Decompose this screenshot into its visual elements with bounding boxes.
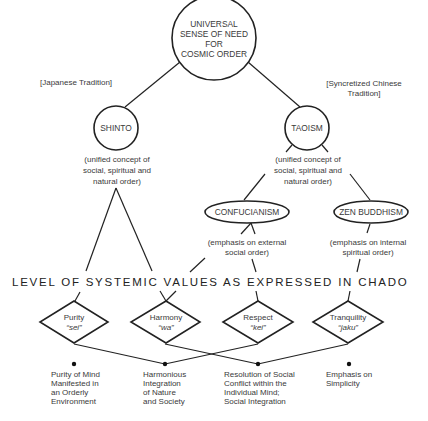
outcome-2-line-3: of Nature: [143, 388, 176, 397]
purity-term: “sei”: [66, 323, 82, 332]
harmony-diamond: [131, 301, 200, 343]
root-node: UNIVERSAL SENSE OF NEED FOR COSMIC ORDER: [172, 0, 256, 80]
confucianism-desc-1: (emphasis on external: [208, 238, 287, 247]
shinto-node: SHINTO (unified concept of social, spiri…: [83, 106, 151, 186]
connector-conf-stub-a: [241, 223, 251, 234]
outcome-4-line-2: Simplicity: [326, 379, 360, 388]
connector-zen-tranquility-upper: [357, 259, 360, 272]
purity-diamond: [40, 301, 108, 343]
taoism-node: TAOISM (unified concept of social, spiri…: [274, 106, 342, 186]
connector-tranquility-top: [348, 291, 350, 301]
respect-term: “kei”: [250, 323, 266, 332]
root-line-1: UNIVERSAL: [190, 19, 238, 29]
connector-taoism-stub-left: [286, 145, 292, 152]
root-line-2: SENSE OF NEED: [180, 29, 248, 39]
outcome-dot-simplicity: [347, 362, 351, 366]
harmony-name: Harmony: [150, 313, 182, 322]
confucianism-desc-2: social order): [225, 248, 269, 257]
value-harmony: Harmony “wa”: [131, 301, 200, 343]
connector-harmony-top-right: [166, 291, 176, 301]
taoism-label: TAOISM: [291, 123, 323, 133]
connector-purity-harmonious: [74, 344, 165, 364]
shinto-desc-3: natural order): [93, 177, 141, 186]
outcome-4-line-1: Emphasis on: [326, 370, 372, 379]
outcome-1-line-3: an Orderly: [51, 388, 88, 397]
zen-buddhism-label: ZEN BUDDHISM: [339, 207, 403, 217]
taoism-desc-1: (unified concept of: [275, 155, 341, 164]
outcome-dot-purity: [72, 362, 76, 366]
tranquility-term: “jaku”: [338, 323, 358, 332]
root-line-4: COSMIC ORDER: [181, 49, 247, 59]
value-tranquility: Tranquility “jaku”: [313, 301, 383, 343]
value-respect: Respect “kei”: [223, 301, 293, 343]
outcome-1-line-2: Manifested in: [51, 379, 99, 388]
connector-conf-respect-upper: [252, 259, 256, 272]
outcome-dot-resolution: [256, 362, 260, 366]
purity-name: Purity: [64, 313, 84, 322]
harmony-term: “wa”: [158, 323, 174, 332]
shinto-label: SHINTO: [100, 123, 132, 133]
zen-desc-2: spiritual order): [342, 248, 393, 257]
connector-root-shinto: [125, 62, 180, 107]
outcome-3-line-4: Social Integration: [224, 397, 286, 406]
outcome-2-line-1: Harmonious: [143, 370, 186, 379]
outcome-3-line-1: Resolution of Social: [224, 370, 295, 379]
chado-diagram: UNIVERSAL SENSE OF NEED FOR COSMIC ORDER…: [0, 0, 428, 421]
connector-conf-stub-b: [251, 223, 255, 234]
japanese-tradition-label: [Japanese Tradition]: [40, 78, 112, 87]
root-line-3: FOR: [205, 39, 223, 49]
chinese-tradition-label-2: Tradition]: [347, 89, 380, 98]
confucianism-label: CONFUCIANISM: [215, 207, 280, 217]
connector-harmony-top-left: [160, 291, 166, 301]
connector-zen-stub: [367, 224, 370, 233]
connector-shinto-harmony: [116, 188, 152, 271]
outcome-2-line-2: Integration: [143, 379, 181, 388]
systemic-values-heading: LEVEL OF SYSTEMIC VALUES AS EXPRESSED IN…: [12, 276, 410, 288]
tranquility-name: Tranquility: [330, 313, 367, 322]
connector-root-taoism: [248, 62, 300, 107]
zen-desc-1: (emphasis on internal: [330, 238, 407, 247]
outcome-harmonious-integration: Harmonious Integration of Nature and Soc…: [143, 370, 186, 406]
outcome-2-line-4: and Society: [143, 397, 185, 406]
respect-diamond: [223, 301, 293, 343]
connector-purity-top: [75, 292, 80, 301]
connector-taoism-confucianism: [244, 174, 265, 200]
connector-tranquility-resolution: [258, 344, 348, 364]
confucianism-node: CONFUCIANISM (emphasis on external socia…: [205, 201, 289, 257]
outcome-3-line-3: Individual Mind;: [224, 388, 280, 397]
chinese-tradition-label-1: [Syncretized Chinese: [326, 79, 402, 88]
value-purity: Purity “sei”: [40, 301, 108, 343]
shinto-desc-1: (unified concept of: [84, 155, 150, 164]
connector-taoism-zen: [350, 174, 370, 200]
taoism-desc-2: social, spiritual and: [274, 166, 342, 175]
connector-taoism-stub-right: [322, 145, 328, 152]
tranquility-diamond: [313, 301, 383, 343]
outcome-resolution-of-conflict: Resolution of Social Conflict within the…: [224, 370, 295, 406]
shinto-desc-2: social, spiritual and: [83, 166, 151, 175]
connector-shinto-purity: [86, 188, 116, 271]
outcome-1-line-4: Environment: [51, 397, 97, 406]
outcome-purity-of-mind: Purity of Mind Manifested in an Orderly …: [51, 370, 100, 406]
outcome-dot-harmonious: [163, 362, 167, 366]
outcome-emphasis-on-simplicity: Emphasis on Simplicity: [326, 370, 372, 388]
taoism-desc-3: natural order): [284, 177, 332, 186]
connector-respect-top: [256, 291, 258, 301]
connector-conf-harmony-upper: [190, 258, 205, 272]
respect-name: Respect: [243, 313, 273, 322]
outcome-3-line-2: Conflict within the: [224, 379, 287, 388]
outcome-1-line-1: Purity of Mind: [51, 370, 100, 379]
